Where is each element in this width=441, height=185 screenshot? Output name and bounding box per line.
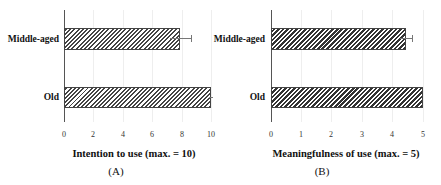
category-label-middle-aged: Middle-aged	[214, 34, 265, 44]
tick-label: 1	[299, 130, 303, 139]
tick-label: 0	[62, 130, 66, 139]
tick-label: 8	[180, 130, 184, 139]
gridline	[211, 10, 212, 122]
bar-old	[64, 87, 211, 108]
x-axis-title: Intention to use (max. = 10)	[72, 148, 195, 159]
tick-label: 10	[207, 130, 215, 139]
error-bar-old	[209, 97, 213, 98]
category-label-middle-aged: Middle-aged	[8, 34, 59, 44]
tick-label: 4	[390, 130, 394, 139]
category-label-old: Old	[250, 92, 265, 102]
error-bar-middle-aged	[170, 38, 191, 39]
bar-middle-aged	[271, 28, 406, 50]
bar-old	[271, 87, 423, 108]
error-bar-middle-aged	[400, 38, 412, 39]
error-cap	[412, 35, 413, 42]
tick-label: 4	[121, 130, 125, 139]
error-cap	[191, 35, 192, 42]
panel-label: (B)	[315, 165, 330, 177]
gridline	[423, 10, 424, 122]
tick-label: 2	[329, 130, 333, 139]
tick-label: 3	[360, 130, 364, 139]
bar-middle-aged	[64, 28, 180, 50]
tick-label: 6	[150, 130, 154, 139]
chart-panel-b: Middle-aged Old 0 1 2 3 4 5 Meaningfulne…	[220, 0, 441, 185]
x-axis-title: Meaningfulness of use (max. = 5)	[272, 148, 419, 159]
tick-label: 0	[269, 130, 273, 139]
chart-panel-a: Middle-aged Old 0 2 4 6 8 10 Intention t…	[0, 0, 220, 185]
tick-label: 5	[421, 130, 425, 139]
tick-label: 2	[91, 130, 95, 139]
panel-label: (A)	[108, 165, 123, 177]
category-label-old: Old	[44, 92, 59, 102]
